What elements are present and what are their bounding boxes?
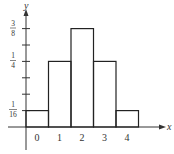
svg-text:3: 3 <box>11 19 15 28</box>
x-tick-labels: 0 1 2 3 4 <box>35 132 130 143</box>
x-axis-label: x <box>166 121 172 132</box>
bar-x-2 <box>71 29 94 127</box>
histogram-chart: y x 1 16 1 4 3 8 0 1 2 3 <box>0 0 174 154</box>
svg-text:1: 1 <box>57 132 62 143</box>
svg-text:8: 8 <box>11 29 15 38</box>
svg-text:2: 2 <box>80 132 85 143</box>
svg-text:1: 1 <box>11 100 15 109</box>
y-tick-label-1-16: 1 16 <box>9 100 17 119</box>
x-axis-arrow-icon <box>159 125 166 130</box>
svg-text:16: 16 <box>9 110 17 119</box>
bar-x-3 <box>94 61 117 127</box>
bar-x-4 <box>116 111 139 127</box>
y-tick-label-3-8: 3 8 <box>10 19 16 38</box>
bar-x-0 <box>26 111 49 127</box>
svg-text:4: 4 <box>11 61 15 70</box>
svg-text:3: 3 <box>102 132 107 143</box>
bar-x-1 <box>49 61 72 127</box>
y-axis-label: y <box>23 0 29 11</box>
svg-text:4: 4 <box>125 132 130 143</box>
y-tick-label-1-4: 1 4 <box>10 51 16 70</box>
svg-text:1: 1 <box>11 51 15 60</box>
svg-text:0: 0 <box>35 132 40 143</box>
histogram-bars <box>26 29 139 127</box>
